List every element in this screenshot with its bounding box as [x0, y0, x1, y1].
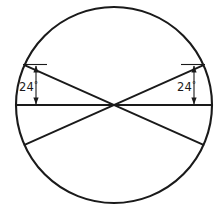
right-angle-value: 24: [177, 80, 192, 94]
right-angle-degree-icon: °: [192, 81, 196, 90]
geometry-svg: 24° 24°: [0, 0, 224, 212]
left-angle-label: 24°: [19, 80, 38, 94]
left-angle-value: 24: [19, 80, 34, 94]
right-annotation-arrow-down-icon: [191, 98, 196, 105]
diagram-canvas: 24° 24°: [0, 0, 224, 212]
left-annotation-arrow-down-icon: [33, 98, 38, 105]
right-angle-label: 24°: [177, 80, 196, 94]
left-angle-degree-icon: °: [34, 81, 38, 90]
